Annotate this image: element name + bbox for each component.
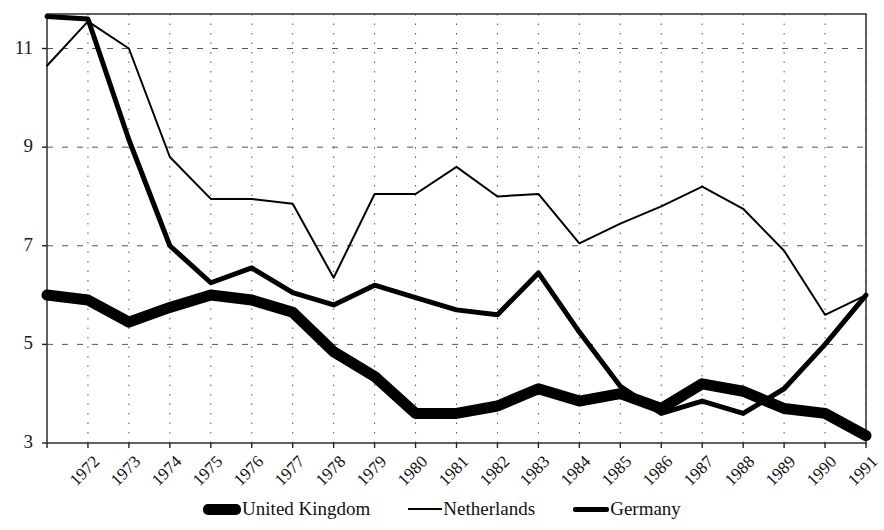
y-axis-tick-label: 7 (0, 234, 33, 256)
y-axis-tick-label: 5 (0, 332, 33, 354)
legend-swatch-netherlands-icon (408, 508, 442, 510)
legend-item-germany: Germany (573, 498, 681, 520)
legend-swatch-united-kingdom-icon (203, 504, 241, 515)
legend-label-united-kingdom: United Kingdom (242, 498, 370, 520)
legend-label-netherlands: Netherlands (443, 498, 535, 520)
y-axis-tick-label: 9 (0, 135, 33, 157)
chart-container: 119753 197219731974197519761977197819791… (0, 0, 884, 530)
y-axis-tick-label: 11 (0, 37, 33, 59)
line-chart-plot (0, 0, 884, 530)
y-axis-tick-label: 3 (0, 431, 33, 453)
legend-label-germany: Germany (610, 498, 681, 520)
legend-swatch-germany-icon (573, 507, 609, 512)
chart-legend: United Kingdom Netherlands Germany (0, 492, 884, 526)
legend-item-netherlands: Netherlands (408, 498, 535, 520)
legend-item-united-kingdom: United Kingdom (203, 498, 370, 520)
